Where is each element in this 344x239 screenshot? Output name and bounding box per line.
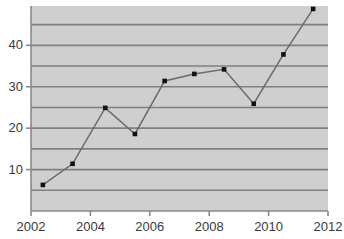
data-point-marker (311, 7, 316, 12)
x-axis-tick-label: 2002 (17, 219, 46, 234)
x-axis-tick-label: 2004 (76, 219, 105, 234)
data-point-marker (281, 52, 286, 57)
x-axis-tick-label: 2006 (135, 219, 164, 234)
y-axis-tick-label: 10 (9, 162, 23, 177)
x-axis-tick-label: 2012 (314, 219, 343, 234)
data-point-marker (192, 72, 197, 77)
data-point-marker (162, 79, 167, 84)
data-point-marker (222, 67, 227, 72)
data-point-marker (133, 132, 138, 137)
data-point-marker (103, 106, 108, 111)
plot-area-background (31, 6, 328, 211)
chart-canvas: 10203040 200220042006200820102012 (0, 0, 344, 239)
data-point-marker (251, 101, 256, 106)
data-point-marker (70, 161, 75, 166)
data-point-marker (41, 183, 46, 188)
y-axis-tick-label: 30 (9, 79, 23, 94)
x-axis-tick-label: 2008 (195, 219, 224, 234)
x-axis-tick-label: 2010 (254, 219, 283, 234)
y-axis-tick-label: 20 (9, 120, 23, 135)
y-axis-tick-label: 40 (9, 37, 23, 52)
line-chart: 10203040 200220042006200820102012 (0, 0, 344, 239)
